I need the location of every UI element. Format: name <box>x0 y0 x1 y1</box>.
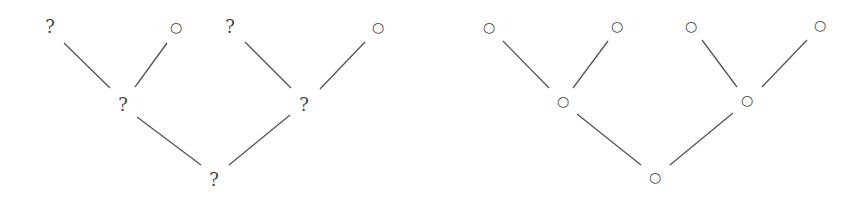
right-tree-edge <box>577 114 641 165</box>
right-tree-edge <box>762 40 807 87</box>
unknown-node: ? <box>209 171 219 189</box>
left-tree-edge <box>320 42 365 89</box>
diagram-canvas: ?○?○???○○○○○○○ <box>0 0 864 198</box>
known-node: ○ <box>685 19 697 33</box>
left-tree-edge <box>64 43 110 88</box>
unknown-node: ? <box>225 18 235 36</box>
unknown-node: ? <box>45 18 55 36</box>
known-node: ○ <box>372 20 384 34</box>
known-node: ○ <box>483 20 495 34</box>
known-node: ○ <box>557 94 569 108</box>
right-tree-edge <box>670 113 733 165</box>
known-node: ○ <box>170 20 182 34</box>
unknown-node: ? <box>118 96 128 114</box>
right-tree-edge <box>573 41 608 88</box>
right-tree-edge <box>503 41 549 88</box>
tree-edges <box>0 0 864 198</box>
known-node: ○ <box>611 19 623 33</box>
unknown-node: ? <box>299 96 309 114</box>
left-tree-edge <box>137 117 201 165</box>
known-node: ○ <box>741 93 753 107</box>
known-node: ○ <box>814 18 826 32</box>
left-tree-edge <box>245 42 291 88</box>
right-tree-edge <box>702 40 737 87</box>
left-tree-edge <box>135 43 167 87</box>
known-node: ○ <box>649 170 661 184</box>
left-tree-edge <box>229 115 290 165</box>
